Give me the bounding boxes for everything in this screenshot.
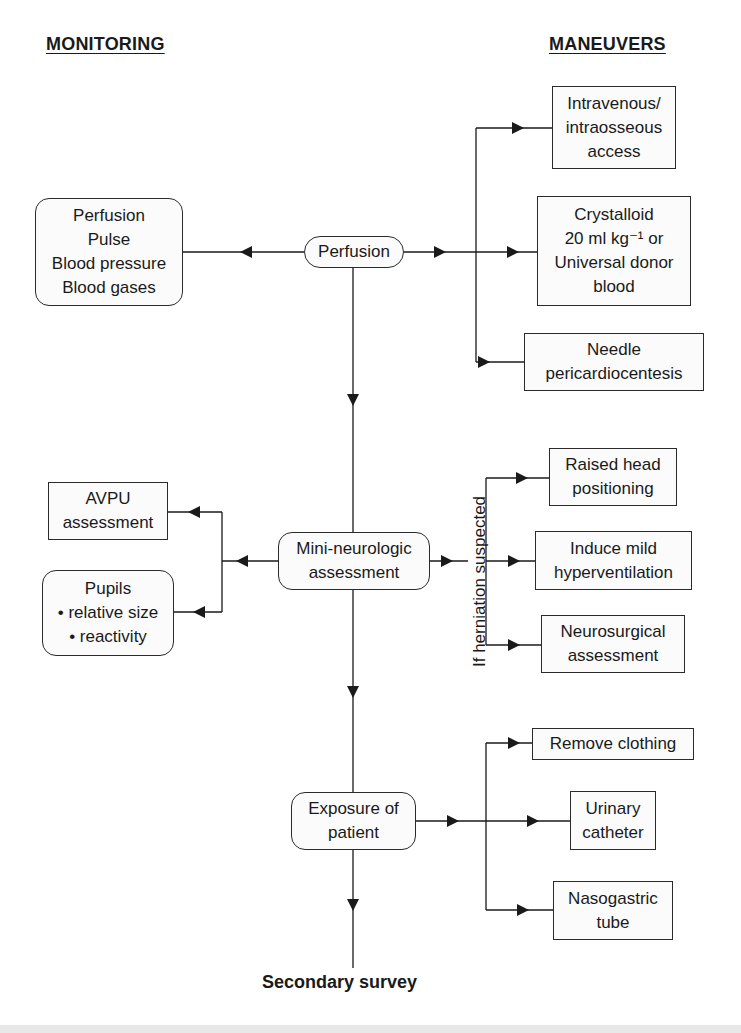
scan-edge bbox=[0, 1025, 741, 1033]
mini-neurologic-node: Mini-neurologic assessment bbox=[278, 532, 430, 590]
needle-pericardiocentesis-text: Needle pericardiocentesis bbox=[545, 338, 682, 386]
raised-head-text: Raised head positioning bbox=[565, 453, 660, 501]
pupils-text: Pupils • relative size • reactivity bbox=[58, 577, 158, 649]
urinary-catheter-box: Urinary catheter bbox=[570, 791, 656, 850]
maneuvers-heading: MANEUVERS bbox=[549, 34, 666, 55]
crystalloid-box: Crystalloid 20 ml kg⁻¹ or Universal dono… bbox=[537, 196, 691, 306]
needle-pericardiocentesis-box: Needle pericardiocentesis bbox=[524, 333, 704, 391]
crystalloid-text: Crystalloid 20 ml kg⁻¹ or Universal dono… bbox=[554, 203, 673, 299]
perfusion-monitoring-box: Perfusion Pulse Blood pressure Blood gas… bbox=[35, 198, 183, 306]
remove-clothing-box: Remove clothing bbox=[532, 728, 694, 760]
avpu-text: AVPU assessment bbox=[63, 487, 154, 535]
exposure-label: Exposure of patient bbox=[308, 797, 399, 845]
hyperventilation-box: Induce mild hyperventilation bbox=[535, 531, 692, 590]
monitoring-heading: MONITORING bbox=[46, 34, 165, 55]
avpu-box: AVPU assessment bbox=[48, 482, 168, 540]
raised-head-box: Raised head positioning bbox=[549, 448, 677, 506]
nasogastric-tube-text: Nasogastric tube bbox=[568, 887, 658, 935]
iv-access-text: Intravenous/ intraosseous access bbox=[566, 92, 662, 164]
exposure-node: Exposure of patient bbox=[291, 792, 416, 850]
iv-access-box: Intravenous/ intraosseous access bbox=[552, 86, 676, 169]
neurosurgical-text: Neurosurgical assessment bbox=[561, 620, 666, 668]
hyperventilation-text: Induce mild hyperventilation bbox=[554, 537, 673, 585]
perfusion-monitoring-text: Perfusion Pulse Blood pressure Blood gas… bbox=[52, 204, 166, 300]
neurosurgical-box: Neurosurgical assessment bbox=[541, 615, 685, 673]
urinary-catheter-text: Urinary catheter bbox=[582, 797, 643, 845]
remove-clothing-text: Remove clothing bbox=[550, 732, 677, 756]
secondary-survey-label: Secondary survey bbox=[262, 972, 417, 993]
perfusion-node: Perfusion bbox=[304, 236, 404, 268]
nasogastric-tube-box: Nasogastric tube bbox=[553, 881, 673, 940]
herniation-condition-label: If herniation suspected bbox=[470, 496, 490, 667]
mini-neurologic-label: Mini-neurologic assessment bbox=[296, 537, 411, 585]
pupils-box: Pupils • relative size • reactivity bbox=[42, 570, 174, 656]
perfusion-node-label: Perfusion bbox=[318, 240, 390, 264]
